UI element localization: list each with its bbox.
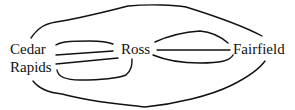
- node-label-rapids: Rapids: [10, 60, 52, 75]
- edge-ross-fairfield-3: [153, 55, 233, 63]
- edge-cedar-rapids-ross-1: [56, 41, 113, 45]
- node-label-cedar: Cedar: [10, 42, 46, 57]
- edge-cedar-rapids-ross-3: [56, 58, 118, 64]
- edge-cedar-rapids-fairfield-top: [31, 5, 262, 38]
- edge-ross-fairfield-1: [155, 31, 228, 43]
- edge-cedar-rapids-ross-2: [56, 51, 113, 55]
- node-label-ross: Ross: [121, 42, 150, 57]
- node-label-fairfield: Fairfield: [233, 42, 285, 57]
- edge-cedar-rapids-fairfield-bottom: [33, 61, 265, 107]
- multigraph-diagram: Cedar Rapids Ross Fairfield: [0, 0, 295, 110]
